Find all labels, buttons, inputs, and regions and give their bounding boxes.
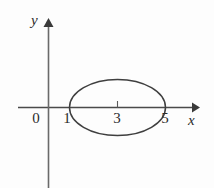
coordinate-plane-svg xyxy=(0,0,214,188)
ellipse-figure: y x 0 1 3 5 xyxy=(0,0,214,188)
origin-tick-label: 0 xyxy=(28,111,44,126)
y-axis-label: y xyxy=(31,13,38,28)
x-tick-label-5: 5 xyxy=(157,111,173,126)
x-tick-label-3: 3 xyxy=(109,111,125,126)
x-axis-arrowhead xyxy=(192,103,200,113)
x-tick-label-1: 1 xyxy=(59,111,75,126)
y-axis-arrowhead xyxy=(44,18,54,27)
x-axis-label: x xyxy=(188,113,195,128)
